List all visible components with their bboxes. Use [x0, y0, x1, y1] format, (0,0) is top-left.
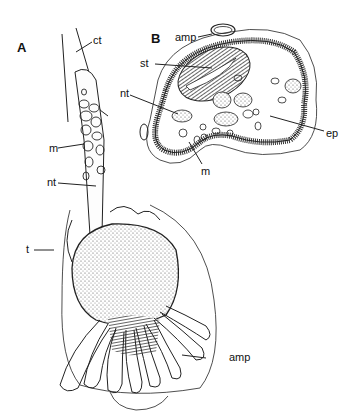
label-b-ep: ep [326, 128, 338, 139]
label-b-nt: nt [120, 88, 129, 99]
leader-m [58, 144, 84, 148]
label-a-nt: nt [47, 177, 56, 188]
b-amp-ring [211, 24, 235, 36]
tail-outline [110, 392, 168, 410]
label-b-st: st [140, 58, 149, 69]
panel-label-b: B [151, 32, 160, 45]
leader-b-amp [198, 34, 212, 37]
label-b-amp: amp [175, 32, 196, 43]
label-a-m: m [49, 143, 58, 154]
stippled-mass [72, 224, 178, 325]
leader-b-nt [130, 95, 178, 114]
panel-label-a: A [17, 41, 26, 54]
label-a-amp: amp [229, 352, 250, 363]
nt-strand [75, 69, 104, 235]
label-a-ct: ct [93, 35, 102, 46]
leader-ct [76, 42, 92, 52]
label-b-m: m [201, 166, 210, 177]
figure-canvas [0, 0, 356, 420]
label-a-t: t [26, 244, 29, 255]
